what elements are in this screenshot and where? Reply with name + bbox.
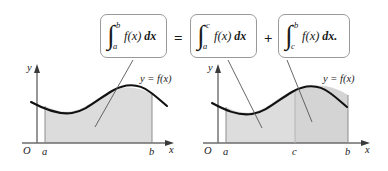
right-curve-label: y = f(x)	[323, 74, 355, 85]
integral-lower-limit: a	[113, 42, 117, 51]
callout-box-integral-c-to-b[interactable]: ∫ b c f(x) dx .	[278, 14, 350, 58]
plus-symbol: +	[264, 31, 273, 46]
integral-upper-limit: c	[206, 21, 210, 30]
integrand-expression: f(x)	[214, 29, 231, 44]
left-curve-label: y = f(x)	[140, 74, 172, 85]
differential-dx: dx	[322, 29, 334, 44]
integral-upper-limit: b	[116, 21, 120, 30]
integral-limits-c-to-b: b c	[294, 22, 301, 50]
right-y-axis-arrow	[215, 64, 221, 73]
differential-dx: dx	[144, 29, 156, 44]
integral-limits-a-to-b: b a	[116, 22, 123, 50]
right-origin-label: O	[204, 146, 212, 157]
right-tick-label-a: a	[223, 147, 228, 158]
differential-dx: dx	[234, 29, 246, 44]
integral-expression-a-to-b: ∫ b a f(x) dx	[107, 15, 156, 57]
left-shaded-region	[45, 88, 152, 143]
right-x-axis-label: x	[365, 145, 370, 156]
left-x-axis-label: x	[169, 145, 174, 156]
integrand-expression: f(x)	[124, 29, 141, 44]
right-tick-label-b: b	[345, 147, 350, 158]
integral-upper-limit: b	[294, 21, 298, 30]
integral-lower-limit: c	[291, 42, 295, 51]
callout-box-integral-a-to-b[interactable]: ∫ b a f(x) dx	[100, 14, 167, 58]
left-tick-label-a: a	[42, 147, 47, 158]
left-y-axis-label: y	[27, 63, 32, 74]
integral-expression-c-to-b: ∫ b c f(x) dx .	[285, 15, 337, 57]
right-shaded-region-right	[295, 85, 348, 143]
right-y-axis-label: y	[208, 63, 213, 74]
integral-limits-a-to-c: c a	[206, 22, 213, 50]
equals-symbol: =	[174, 31, 183, 46]
left-y-axis-arrow	[34, 64, 40, 73]
trailing-period: .	[334, 29, 337, 44]
left-tick-label-b: b	[149, 147, 154, 158]
callout-box-integral-a-to-c[interactable]: ∫ c a f(x) dx	[190, 14, 257, 58]
integral-expression-a-to-c: ∫ c a f(x) dx	[197, 15, 246, 57]
left-origin-label: O	[23, 146, 31, 157]
right-tick-label-c: c	[292, 147, 297, 158]
integral-additivity-figure: ∫ b a f(x) dx = ∫ c a f(x) dx + ∫ b	[0, 0, 388, 171]
integral-lower-limit: a	[203, 42, 207, 51]
integrand-expression: f(x)	[302, 29, 319, 44]
